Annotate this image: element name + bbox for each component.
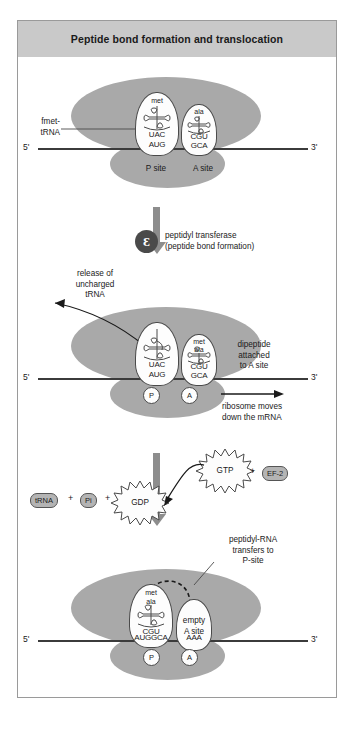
diagram-canvas: 5ʹ 3ʹ fmet- tRNA met UAC AUG ala	[18, 57, 336, 698]
transfer-dashed-arrow-svg	[18, 57, 338, 698]
figure-title-bar: Peptide bond formation and translocation	[18, 21, 336, 57]
figure-title: Peptide bond formation and translocation	[71, 33, 283, 45]
trna-a-site-3-empty: empty A site	[176, 599, 212, 651]
figure-panel: Peptide bond formation and translocation…	[17, 20, 337, 698]
three-prime-label-3: 3ʹ	[311, 634, 317, 644]
five-prime-label-3: 5ʹ	[23, 634, 29, 644]
mrna-codons-a-3: AAA	[176, 633, 212, 642]
p-site-circle-3: P	[143, 649, 160, 666]
a-site-circle-3: A	[181, 649, 198, 666]
